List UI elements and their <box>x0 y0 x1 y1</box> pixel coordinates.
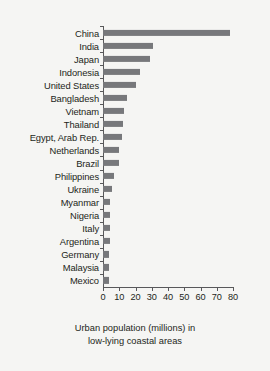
bar-row: Nigeria <box>0 209 270 222</box>
bar <box>103 173 114 179</box>
x-axis-tick <box>119 287 120 291</box>
bar <box>103 186 112 192</box>
x-axis-tick <box>136 287 137 291</box>
category-label: India <box>79 40 99 51</box>
x-axis-tick <box>184 287 185 291</box>
bar-row: Ukraine <box>0 183 270 196</box>
bar-row: Japan <box>0 52 270 65</box>
x-axis-tick-label: 0 <box>100 292 105 302</box>
bar <box>103 134 122 140</box>
y-axis-tick <box>100 248 104 249</box>
bar <box>103 238 110 244</box>
category-label: Nigeria <box>70 210 99 221</box>
x-axis-title: Urban population (millions) in low-lying… <box>0 322 270 347</box>
y-axis-tick <box>100 274 104 275</box>
x-axis-tick-label: 10 <box>114 292 124 302</box>
category-label: Netherlands <box>50 144 99 155</box>
category-label: Italy <box>82 223 99 234</box>
y-axis-tick <box>100 78 104 79</box>
bar <box>103 251 109 257</box>
category-label: Bangladesh <box>50 92 99 103</box>
x-axis-tick <box>168 287 169 291</box>
y-axis-tick <box>100 117 104 118</box>
x-axis-tick-label: 80 <box>228 292 238 302</box>
bar-row: Indonesia <box>0 65 270 78</box>
x-axis-tick <box>233 287 234 291</box>
x-axis-tick <box>103 287 104 291</box>
category-label: Egypt, Arab Rep. <box>30 131 99 142</box>
bar-row: Italy <box>0 222 270 235</box>
y-axis-tick <box>100 104 104 105</box>
category-label: Philippines <box>55 171 99 182</box>
bar-row: Thailand <box>0 117 270 130</box>
bar <box>103 69 140 75</box>
bar-row: Germany <box>0 248 270 261</box>
x-axis-tick-label: 40 <box>163 292 173 302</box>
bar <box>103 121 123 127</box>
category-label: Japan <box>74 53 99 64</box>
y-axis-tick <box>100 39 104 40</box>
category-label: Mexico <box>70 275 99 286</box>
y-axis-tick <box>100 52 104 53</box>
bar-row: Argentina <box>0 235 270 248</box>
category-label: Malaysia <box>63 262 99 273</box>
category-label: China <box>75 27 99 38</box>
bar-chart-plot-area: ChinaIndiaJapanIndonesiaUnited StatesBan… <box>0 0 270 371</box>
bar-row: China <box>0 26 270 39</box>
bar-row: Netherlands <box>0 143 270 156</box>
x-axis-title-line-1: Urban population (millions) in <box>0 322 270 335</box>
bar <box>103 56 150 62</box>
category-label: Germany <box>61 249 99 260</box>
y-axis-tick <box>100 209 104 210</box>
x-axis-title-line-2: low-lying coastal areas <box>0 335 270 348</box>
y-axis-tick <box>100 183 104 184</box>
y-axis-tick <box>100 91 104 92</box>
x-axis-tick-label: 60 <box>195 292 205 302</box>
bar <box>103 225 110 231</box>
bar <box>103 95 127 101</box>
y-axis-tick <box>100 196 104 197</box>
category-label: United States <box>44 79 99 90</box>
y-axis-tick <box>100 130 104 131</box>
y-axis-tick <box>100 156 104 157</box>
category-label: Brazil <box>76 157 99 168</box>
y-axis-tick <box>100 235 104 236</box>
bar-row: Brazil <box>0 156 270 169</box>
bar-row: India <box>0 39 270 52</box>
bar <box>103 147 119 153</box>
y-axis-tick <box>100 143 104 144</box>
category-label: Vietnam <box>65 105 99 116</box>
category-label: Argentina <box>60 236 99 247</box>
x-axis-tick <box>217 287 218 291</box>
bar <box>103 160 119 166</box>
x-axis-tick-label: 20 <box>130 292 140 302</box>
x-axis-tick <box>152 287 153 291</box>
bar-row: Vietnam <box>0 104 270 117</box>
bar-row: Egypt, Arab Rep. <box>0 130 270 143</box>
y-axis-tick <box>100 26 104 27</box>
bar-row: Bangladesh <box>0 91 270 104</box>
bar <box>103 108 124 114</box>
bar <box>103 199 110 205</box>
category-label: Indonesia <box>59 66 99 77</box>
y-axis-tick <box>100 222 104 223</box>
x-axis-tick-label: 50 <box>179 292 189 302</box>
category-label: Myanmar <box>61 197 99 208</box>
category-label: Thailand <box>64 118 99 129</box>
bar-row: Mexico <box>0 274 270 287</box>
bar-row: Myanmar <box>0 196 270 209</box>
chart-figure: ChinaIndiaJapanIndonesiaUnited StatesBan… <box>0 0 270 371</box>
bar-rows-container: ChinaIndiaJapanIndonesiaUnited StatesBan… <box>0 26 270 287</box>
bar <box>103 29 230 35</box>
bar <box>103 212 110 218</box>
bar-row: United States <box>0 78 270 91</box>
bar <box>103 82 136 88</box>
bar <box>103 277 109 283</box>
y-axis-tick <box>100 261 104 262</box>
bar <box>103 264 109 270</box>
x-axis-tick <box>201 287 202 291</box>
category-label: Ukraine <box>67 184 99 195</box>
bar <box>103 42 153 48</box>
bar-row: Philippines <box>0 170 270 183</box>
bar-row: Malaysia <box>0 261 270 274</box>
